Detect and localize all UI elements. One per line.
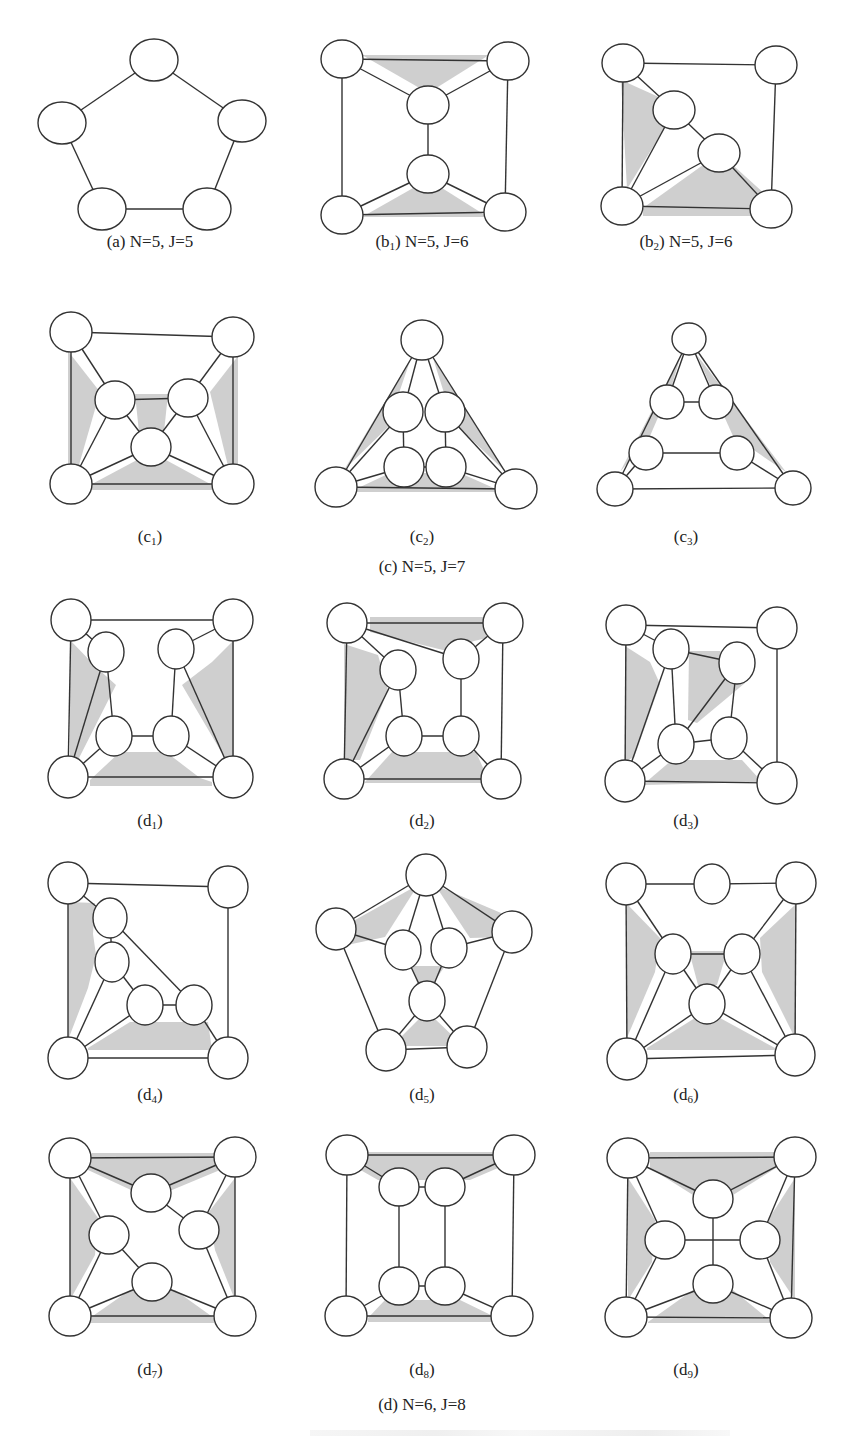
shaded-link-region <box>357 1152 498 1180</box>
edge <box>628 1157 795 1158</box>
diagram-d6 <box>606 862 816 1080</box>
diagram-d3 <box>605 605 797 804</box>
joint-node <box>431 928 467 968</box>
joint-node <box>443 639 479 679</box>
joint-node <box>443 716 479 756</box>
joint-node <box>401 320 443 360</box>
joint-node <box>51 599 91 641</box>
joint-node <box>132 1263 172 1301</box>
joint-node <box>699 385 733 419</box>
shaded-link-region <box>210 356 238 468</box>
joint-node <box>327 603 367 643</box>
joint-node <box>95 381 135 419</box>
joint-node <box>770 1298 812 1338</box>
joint-node <box>775 471 811 505</box>
joint-node <box>720 436 754 470</box>
joint-node <box>653 629 689 669</box>
joint-node <box>158 629 194 669</box>
joint-node <box>481 759 521 799</box>
joint-node <box>629 436 663 470</box>
diagram-d1 <box>48 599 253 798</box>
shaded-link-region <box>90 752 212 786</box>
joint-node <box>607 1138 649 1178</box>
joint-node <box>724 934 760 974</box>
joint-node <box>50 312 92 352</box>
joint-node <box>425 1168 465 1206</box>
joint-node <box>78 188 126 230</box>
joint-node <box>645 1221 685 1259</box>
joint-node <box>208 866 248 908</box>
joint-node <box>487 42 529 80</box>
joint-node <box>689 984 725 1024</box>
joint-node <box>693 1265 733 1303</box>
joint-node <box>653 91 695 129</box>
edge <box>623 63 776 65</box>
joint-node <box>491 1296 533 1336</box>
joint-node <box>711 717 747 759</box>
joint-node <box>316 908 356 950</box>
joint-node <box>49 1296 91 1336</box>
shaded-link-region <box>88 1022 212 1050</box>
edge <box>626 1317 791 1318</box>
joint-node <box>127 985 163 1025</box>
shaded-link-region <box>626 904 660 1040</box>
joint-node <box>483 603 523 643</box>
joint-node <box>218 100 266 142</box>
diagram-b1 <box>321 40 529 234</box>
shaded-link-region <box>760 904 796 1040</box>
joint-node <box>492 911 532 953</box>
joint-node <box>176 985 212 1025</box>
group-caption-d: (d) N=6, J=8 <box>378 1395 466 1415</box>
joint-node <box>650 385 684 419</box>
graph-diagrams-svg <box>0 0 845 1439</box>
edge <box>627 1055 795 1059</box>
diagram-c3 <box>597 323 811 506</box>
joint-node <box>153 716 189 756</box>
joint-node <box>425 392 465 432</box>
diagram-c1 <box>50 312 254 504</box>
joint-node <box>89 1216 129 1254</box>
joint-node <box>384 447 424 487</box>
joint-node <box>776 862 816 904</box>
footer-caption-faint <box>310 1430 730 1436</box>
joint-node <box>750 190 792 228</box>
joint-node <box>321 40 363 78</box>
joint-node <box>385 930 421 970</box>
joint-node <box>672 323 706 355</box>
edge <box>626 625 777 628</box>
joint-node <box>693 1180 733 1218</box>
joint-node <box>775 1034 815 1076</box>
joint-node <box>605 1297 647 1337</box>
edge <box>622 63 623 206</box>
diagram-b2 <box>601 44 797 228</box>
joint-node <box>606 863 646 905</box>
edge <box>771 65 776 209</box>
edge <box>501 623 503 779</box>
joint-node <box>605 760 645 802</box>
joint-node <box>407 155 449 193</box>
joint-node <box>383 392 423 432</box>
edge <box>795 883 796 1055</box>
edge <box>626 1158 628 1317</box>
joint-node <box>48 756 88 798</box>
joint-node <box>607 1038 647 1080</box>
joint-node <box>183 188 231 230</box>
diagram-d7 <box>49 1137 256 1336</box>
edge <box>625 625 626 781</box>
joint-node <box>380 650 416 690</box>
joint-node <box>757 762 797 804</box>
joint-node <box>484 193 526 231</box>
edge <box>70 1157 235 1158</box>
shaded-link-region <box>368 1300 497 1322</box>
joint-node <box>774 1137 816 1177</box>
diagram-a <box>38 39 266 230</box>
joint-node <box>757 607 797 649</box>
joint-node <box>409 981 445 1021</box>
diagram-d4 <box>48 862 248 1079</box>
shaded-link-region <box>68 902 96 1040</box>
diagram-d2 <box>324 603 523 799</box>
joint-node <box>131 1174 171 1212</box>
joint-node <box>131 428 171 466</box>
edge <box>342 59 508 61</box>
joint-node <box>321 196 363 234</box>
